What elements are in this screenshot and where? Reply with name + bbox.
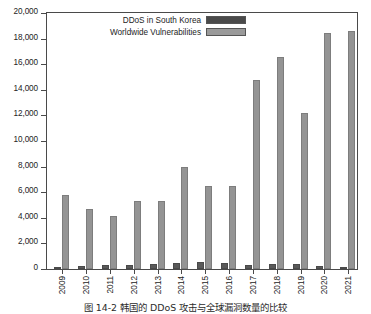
x-axis-tick-label: 2019 (297, 276, 306, 294)
x-axis-tick-mark (110, 270, 111, 274)
y-axis-tick-mark (41, 115, 46, 116)
bar-group (173, 13, 189, 269)
legend-swatch-vulnerabilities (206, 28, 246, 36)
bar-group (245, 13, 261, 269)
bar-vulnerabilities (324, 33, 331, 269)
y-axis-tick-mark (41, 167, 46, 168)
legend-label-vulnerabilities: Worldwide Vulnerabilities (110, 28, 201, 37)
bar-group (197, 13, 213, 269)
x-axis-tick-label: 2018 (273, 276, 282, 294)
y-axis-tick-mark (41, 141, 46, 142)
y-axis-tick-label: 10,000 (14, 135, 38, 144)
bar-ddos (173, 263, 180, 269)
y-axis-tick-label: 18,000 (14, 33, 38, 42)
bar-group (126, 13, 142, 269)
chart-legend: DDoS in South Korea Worldwide Vulnerabil… (86, 15, 246, 39)
figure-caption: 图 14-2 韩国的 DDoS 攻击与全球漏洞数量的比较 (0, 300, 371, 314)
bar-group (150, 13, 166, 269)
bar-vulnerabilities (110, 216, 117, 269)
bar-vulnerabilities (134, 201, 141, 269)
y-axis-tick-mark (41, 39, 46, 40)
bar-ddos (340, 267, 347, 269)
bars-layer (47, 13, 357, 269)
bar-ddos (126, 265, 133, 269)
x-axis-tick-mark (253, 270, 254, 274)
x-axis-tick-label: 2020 (320, 276, 329, 294)
x-axis-tick-label: 2021 (344, 276, 353, 294)
bar-vulnerabilities (205, 186, 212, 269)
y-axis-tick-label: 8,000 (18, 161, 38, 170)
x-axis-tick-mark (229, 270, 230, 274)
bar-group (78, 13, 94, 269)
bar-vulnerabilities (229, 186, 236, 269)
bar-group (340, 13, 356, 269)
bar-ddos (221, 263, 228, 269)
x-axis-tick-label: 2015 (201, 276, 210, 294)
y-axis-tick-label: 0 (34, 263, 38, 272)
y-axis-tick-mark (41, 13, 46, 14)
x-axis-tick-label: 2017 (249, 276, 258, 294)
x-axis-tick-mark (181, 270, 182, 274)
bar-vulnerabilities (277, 57, 284, 269)
bar-vulnerabilities (86, 209, 93, 269)
x-axis-tick-mark (158, 270, 159, 274)
x-axis-tick-label: 2014 (177, 276, 186, 294)
bar-ddos (150, 264, 157, 269)
y-axis-tick-label: 16,000 (14, 58, 38, 67)
y-axis-tick-label: 4,000 (18, 212, 38, 221)
x-axis-tick-mark (324, 270, 325, 274)
bar-ddos (102, 265, 109, 269)
bar-ddos (54, 267, 61, 269)
x-axis-tick-mark (205, 270, 206, 274)
x-axis-tick-mark (348, 270, 349, 274)
x-axis-tick-label: 2013 (154, 276, 163, 294)
y-axis-tick-mark (41, 90, 46, 91)
legend-item-ddos: DDoS in South Korea (86, 15, 246, 25)
x-axis-tick-mark (134, 270, 135, 274)
x-axis-tick-label: 2009 (58, 276, 67, 294)
bar-ddos (197, 262, 204, 269)
bar-ddos (78, 266, 85, 269)
x-axis-tick-label: 2011 (106, 276, 115, 294)
x-axis-tick-mark (86, 270, 87, 274)
bar-ddos (269, 264, 276, 269)
bar-vulnerabilities (158, 201, 165, 269)
y-axis-tick-label: 2,000 (18, 237, 38, 246)
bar-vulnerabilities (253, 80, 260, 269)
bar-group (316, 13, 332, 269)
bar-vulnerabilities (348, 31, 355, 269)
bar-group (293, 13, 309, 269)
legend-swatch-ddos (206, 16, 246, 24)
bar-ddos (293, 264, 300, 269)
bar-group (269, 13, 285, 269)
y-axis-tick-mark (41, 269, 46, 270)
x-axis-tick-mark (301, 270, 302, 274)
bar-vulnerabilities (181, 167, 188, 269)
y-axis-tick-label: 14,000 (14, 84, 38, 93)
y-axis-tick-mark (41, 218, 46, 219)
bar-vulnerabilities (62, 195, 69, 269)
y-axis-tick-mark (41, 192, 46, 193)
bar-group (54, 13, 70, 269)
legend-label-ddos: DDoS in South Korea (123, 16, 201, 25)
y-axis-tick-label: 20,000 (14, 7, 38, 16)
y-axis-tick-mark (41, 64, 46, 65)
x-axis-tick-label: 2010 (82, 276, 91, 294)
bar-group (102, 13, 118, 269)
y-axis-tick-label: 6,000 (18, 186, 38, 195)
x-axis-tick-label: 2012 (130, 276, 139, 294)
figure-container: 02,0004,0006,0008,00010,00012,00014,0001… (0, 0, 371, 314)
bar-vulnerabilities (301, 113, 308, 269)
x-axis-tick-label: 2016 (225, 276, 234, 294)
y-axis-tick-label: 12,000 (14, 109, 38, 118)
x-axis-tick-mark (277, 270, 278, 274)
legend-item-vulnerabilities: Worldwide Vulnerabilities (86, 27, 246, 37)
bar-ddos (245, 265, 252, 269)
bar-ddos (316, 266, 323, 269)
x-axis-tick-mark (62, 270, 63, 274)
y-axis-tick-mark (41, 243, 46, 244)
bar-group (221, 13, 237, 269)
